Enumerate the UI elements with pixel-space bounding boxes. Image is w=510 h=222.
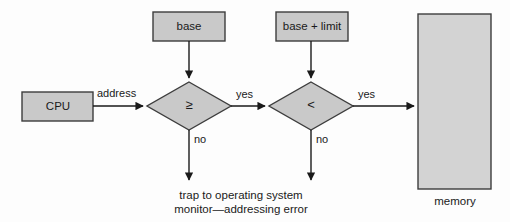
diagram-canvas: [0, 0, 510, 222]
compare-lt-diamond: [269, 82, 353, 130]
compare-ge-diamond: [147, 82, 231, 130]
cpu-box: [22, 92, 93, 121]
base-limit-box: [276, 12, 348, 41]
memory-box: [418, 14, 491, 189]
address-protection-diagram: CPU base base + limit ≥ < memory address…: [0, 0, 510, 222]
base-box: [153, 12, 225, 41]
